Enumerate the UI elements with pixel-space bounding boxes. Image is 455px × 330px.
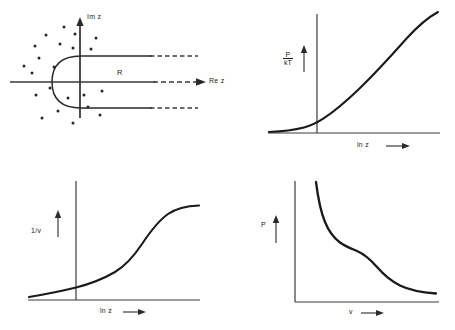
panel-complex-plane: Im z Re z R <box>0 0 232 165</box>
curve-pressure-over-kT <box>269 12 438 132</box>
axis-label-ln-z: ln z <box>100 307 112 314</box>
contour-radius-label: R <box>117 69 123 77</box>
axis-label-kt-denominator: kT <box>283 59 293 66</box>
axis-label-p-numerator: P <box>283 51 293 59</box>
imaginary-axis-arrowhead <box>76 17 83 26</box>
axis-label-im-z: Im z <box>87 13 101 20</box>
curve-inverse-volume <box>29 206 199 298</box>
figure-root: Im z Re z R P kT ln z <box>0 0 455 330</box>
density-vs-lnz-svg <box>0 165 228 330</box>
x-direction-arrowhead <box>138 309 146 315</box>
panel-pressure-vs-v: P v <box>228 165 455 330</box>
axis-label-inverse-v: 1/v <box>31 227 41 234</box>
y-direction-arrowhead <box>273 215 279 223</box>
axis-label-p-over-kt: P kT <box>283 51 293 67</box>
y-direction-arrowhead <box>55 210 61 218</box>
panel-pressure-vs-lnz: P kT ln z <box>228 0 455 165</box>
curve-isotherm-pressure <box>316 182 436 294</box>
x-direction-arrowhead <box>376 310 384 316</box>
pressure-vs-v-svg <box>228 165 455 330</box>
real-axis-arrowhead <box>196 78 206 86</box>
complex-plane-svg <box>0 0 232 165</box>
pressure-vs-lnz-svg <box>228 0 455 165</box>
y-direction-arrowhead <box>301 45 307 53</box>
axis-label-p: P <box>261 221 266 228</box>
axis-label-ln-z: ln z <box>357 141 369 148</box>
axis-label-v: v <box>349 308 353 315</box>
partition-function-zeros <box>23 26 104 125</box>
x-direction-arrowhead <box>402 143 410 149</box>
axis-label-re-z: Re z <box>209 77 225 84</box>
panel-density-vs-lnz: 1/v ln z <box>0 165 228 330</box>
